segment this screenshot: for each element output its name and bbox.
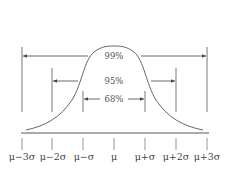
axis-label-mu-plus-3sigma: μ+3σ — [194, 151, 221, 162]
axis-ticks — [22, 138, 207, 150]
axis-label-mu-plus-2sigma: μ+2σ — [163, 151, 190, 162]
axis-label-mu-plus-sigma: μ+σ — [135, 151, 156, 162]
axis-label-mu-minus-sigma: μ−σ — [74, 151, 95, 162]
axis-label-mu-minus-3sigma: μ−3σ — [9, 151, 36, 162]
normal-distribution-diagram: 99% 95% 68% μ−3σ μ−2σ μ−σ μ μ+σ μ+2σ μ+3… — [0, 0, 231, 176]
axis-label-mu-minus-2sigma: μ−2σ — [40, 151, 67, 162]
label-68-percent: 68% — [105, 94, 124, 104]
axis-label-mu: μ — [111, 151, 117, 162]
label-95-percent: 95% — [105, 76, 124, 86]
label-99-percent: 99% — [105, 51, 124, 61]
